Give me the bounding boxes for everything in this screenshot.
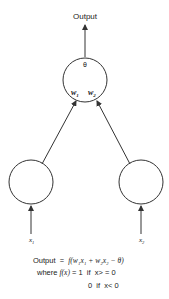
connection-1-arrow: [42, 101, 76, 164]
weight-2-label: w2: [88, 88, 96, 98]
equation-else-text: 0 if x< 0: [88, 281, 119, 290]
equation-where-prefix: where: [37, 268, 60, 277]
equation-where: where f(x) = 1 if x> = 0: [37, 268, 169, 277]
input-2-label: x2: [138, 236, 145, 245]
weight-1-label: w1: [71, 88, 79, 98]
neuron-diagram: Output θ w1 w2 x1 x2: [0, 0, 169, 299]
equation-else: 0 if x< 0: [88, 281, 169, 290]
input-neuron-1: [9, 160, 53, 204]
input-1-label: x1: [28, 236, 34, 245]
equation-where-func: f(x): [60, 268, 70, 277]
equation-output-prefix: Output =: [33, 256, 68, 265]
input-neuron-2: [119, 160, 163, 204]
output-label: Output: [73, 12, 98, 21]
connection-2-arrow: [97, 101, 130, 164]
equation-output: Output = f(w₁x₁ + w₂x₂ − θ): [33, 256, 169, 265]
equation-body: (w₁x₁ + w₂x₂ − θ): [70, 256, 123, 265]
equation-where-rest: = 1 if x> = 0: [70, 268, 116, 277]
threshold-label: θ: [83, 61, 87, 68]
